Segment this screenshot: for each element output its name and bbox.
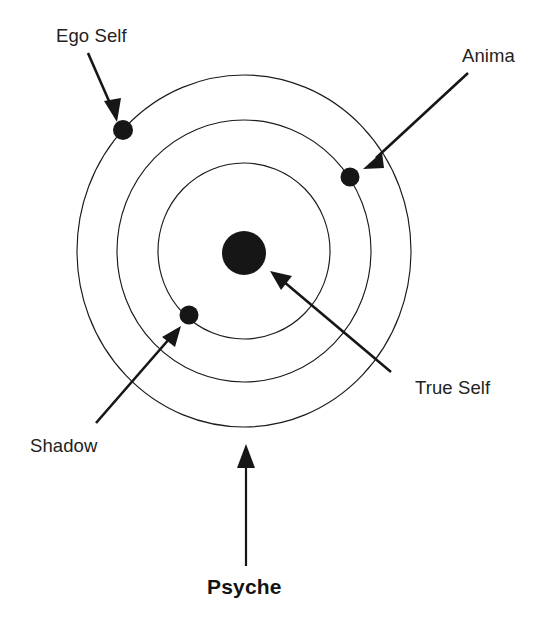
- node-dot-ego-self[interactable]: [113, 120, 133, 140]
- arrow-psyche-head: [237, 444, 255, 468]
- node-dot-group: [113, 120, 360, 325]
- label-shadow: Shadow: [30, 437, 97, 456]
- psyche-diagram: Ego Self Anima True Self Shadow Psyche: [0, 0, 544, 626]
- label-anima: Anima: [462, 47, 515, 66]
- label-psyche: Psyche: [207, 576, 282, 597]
- arrow-shadow-line: [96, 338, 170, 423]
- arrow-true-self-line: [283, 281, 391, 372]
- label-true-self: True Self: [415, 379, 490, 398]
- arrow-ego-self-line: [88, 53, 112, 108]
- node-dot-true-self[interactable]: [222, 231, 266, 275]
- label-ego-self: Ego Self: [56, 27, 127, 46]
- arrow-anima-head: [363, 152, 384, 169]
- arrow-ego-self: [88, 53, 121, 122]
- arrow-true-self: [270, 271, 391, 372]
- arrow-psyche: [237, 444, 255, 566]
- node-dot-shadow[interactable]: [180, 306, 199, 325]
- arrow-anima: [363, 73, 468, 169]
- node-dot-anima[interactable]: [341, 168, 360, 187]
- arrow-ego-self-head: [104, 98, 121, 122]
- arrow-anima-line: [376, 73, 468, 158]
- diagram-canvas: [0, 0, 544, 626]
